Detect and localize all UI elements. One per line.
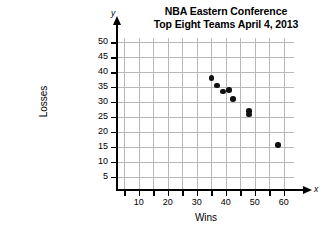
y-axis-tick-label: 35 <box>86 81 108 91</box>
gridline-horizontal <box>117 57 294 58</box>
x-axis-tick-label: 40 <box>214 197 238 207</box>
x-axis-tick <box>255 190 256 196</box>
gridline-horizontal <box>117 117 294 118</box>
x-axis-letter: x <box>314 184 318 194</box>
x-axis-tick <box>240 190 241 196</box>
gridline-vertical <box>124 38 125 190</box>
y-axis-tick-label: 25 <box>86 111 108 121</box>
x-axis-line <box>116 189 310 191</box>
gridline-vertical <box>182 38 183 190</box>
y-axis-tick <box>111 132 117 133</box>
plot-area <box>117 38 294 190</box>
x-axis-tick <box>168 190 169 196</box>
gridline-horizontal <box>117 132 294 133</box>
x-axis-tick <box>284 190 285 196</box>
gridline-vertical <box>197 38 198 190</box>
data-point <box>209 75 215 81</box>
chart-title: NBA Eastern Conference Top Eight Teams A… <box>126 5 326 30</box>
data-point <box>226 87 232 93</box>
y-axis-tick-label: 45 <box>86 51 108 61</box>
gridline-horizontal <box>117 42 294 43</box>
y-axis-tick <box>111 72 117 73</box>
x-axis-tick-label: 60 <box>272 197 296 207</box>
x-axis-tick <box>124 190 125 196</box>
scatter-chart: NBA Eastern Conference Top Eight Teams A… <box>0 0 330 235</box>
y-axis-tick <box>111 117 117 118</box>
data-point <box>220 89 226 95</box>
chart-title-line-1: NBA Eastern Conference <box>126 5 326 18</box>
y-axis-tick <box>111 147 117 148</box>
y-axis-tick-label: 50 <box>86 36 108 46</box>
gridline-horizontal <box>117 72 294 73</box>
x-axis-tick <box>153 190 154 196</box>
x-axis-title: Wins <box>166 212 246 223</box>
gridline-horizontal <box>117 177 294 178</box>
y-axis-tick-label: 30 <box>86 96 108 106</box>
y-axis-line <box>116 24 118 191</box>
y-axis-tick <box>111 162 117 163</box>
y-axis-tick <box>111 57 117 58</box>
data-point <box>230 96 236 102</box>
gridline-vertical <box>168 38 169 190</box>
gridline-vertical <box>211 38 212 190</box>
x-axis-tick <box>211 190 212 196</box>
gridline-vertical <box>269 38 270 190</box>
chart-title-line-2: Top Eight Teams April 4, 2013 <box>126 18 326 31</box>
x-axis-tick <box>139 190 140 196</box>
x-axis-tick-label: 10 <box>127 197 151 207</box>
gridline-vertical <box>139 38 140 190</box>
y-axis-tick-label: 10 <box>86 156 108 166</box>
gridline-horizontal <box>117 147 294 148</box>
x-axis-arrow-icon <box>303 186 312 194</box>
y-axis-title: Losses <box>38 52 49 152</box>
gridline-vertical <box>255 38 256 190</box>
x-axis-tick-label: 20 <box>156 197 180 207</box>
y-axis-tick <box>111 102 117 103</box>
y-axis-tick-label: 5 <box>86 171 108 181</box>
gridline-vertical <box>226 38 227 190</box>
data-point <box>275 142 281 148</box>
x-axis-tick <box>197 190 198 196</box>
x-axis-tick <box>269 190 270 196</box>
x-axis-tick-label: 50 <box>243 197 267 207</box>
gridline-vertical <box>240 38 241 190</box>
gridline-vertical <box>153 38 154 190</box>
gridline-vertical <box>284 38 285 190</box>
y-axis-tick <box>111 42 117 43</box>
gridline-horizontal <box>117 162 294 163</box>
y-axis-tick-label: 15 <box>86 141 108 151</box>
x-axis-tick-label: 30 <box>185 197 209 207</box>
y-axis-tick <box>111 87 117 88</box>
x-axis-tick <box>182 190 183 196</box>
y-axis-tick <box>111 177 117 178</box>
x-axis-tick <box>226 190 227 196</box>
y-axis-arrow-icon <box>113 16 121 25</box>
gridline-horizontal <box>117 102 294 103</box>
y-axis-tick-label: 20 <box>86 126 108 136</box>
gridline-horizontal <box>117 87 294 88</box>
y-axis-tick-label: 40 <box>86 66 108 76</box>
